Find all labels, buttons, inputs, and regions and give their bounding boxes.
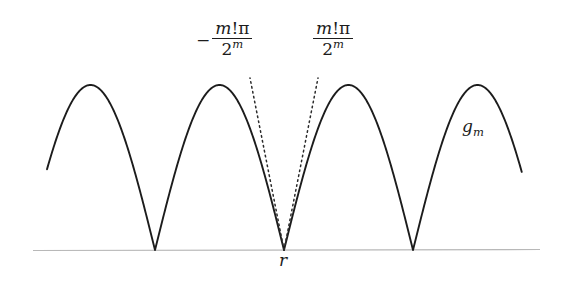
denominator-exponent: m xyxy=(232,37,243,51)
fraction-denominator: 2m xyxy=(218,39,246,58)
curve-name-base: g xyxy=(462,116,473,136)
curve-name-label: gm xyxy=(462,118,484,135)
left-tangent-line xyxy=(250,78,284,250)
denominator-exponent: m xyxy=(333,37,344,51)
numerator-variable: m xyxy=(215,18,231,38)
plot-canvas xyxy=(0,0,569,289)
denominator-base: 2 xyxy=(221,39,232,59)
right-tangent-line xyxy=(284,78,318,250)
numerator-variable: m xyxy=(316,18,332,38)
gm-curve xyxy=(47,85,522,250)
fraction-numerator: m!π xyxy=(212,20,252,38)
root-label: r xyxy=(279,252,287,269)
minus-sign: − xyxy=(196,32,210,49)
left-slope-label: − m!π 2m xyxy=(196,20,252,58)
math-figure: − m!π 2m m!π 2m gm r xyxy=(0,0,569,289)
curve-name-subscript: m xyxy=(473,125,484,139)
numerator-constant: !π xyxy=(231,18,249,38)
fraction-numerator: m!π xyxy=(313,20,353,38)
right-slope-label: m!π 2m xyxy=(313,20,353,58)
fraction: m!π 2m xyxy=(313,20,353,58)
fraction: m!π 2m xyxy=(212,20,252,58)
fraction-denominator: 2m xyxy=(319,39,347,58)
numerator-constant: !π xyxy=(332,18,350,38)
denominator-base: 2 xyxy=(322,39,333,59)
